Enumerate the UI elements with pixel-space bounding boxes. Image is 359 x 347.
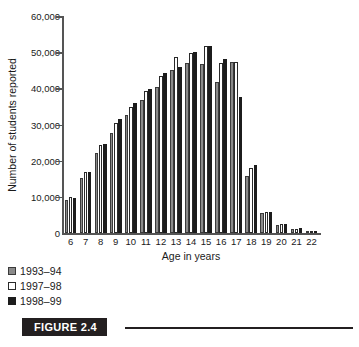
x-axis-tick-label: 7 — [78, 236, 93, 250]
x-axis-tick-label: 20 — [274, 236, 289, 250]
plot-area — [62, 16, 320, 233]
x-axis-tick-label: 11 — [138, 236, 153, 250]
bar — [280, 224, 284, 233]
bar-group — [199, 16, 214, 233]
bar-group — [93, 16, 108, 233]
x-axis-tick-label: 13 — [168, 236, 183, 250]
bar — [144, 91, 148, 233]
bar — [118, 119, 122, 233]
bar-group — [229, 16, 244, 233]
figure-caption-label: FIGURE 2.4 — [22, 318, 107, 336]
bar-group — [244, 16, 259, 233]
bar-groups — [62, 16, 320, 233]
y-axis-title: Number of students reported — [4, 16, 20, 233]
x-axis-tick-label: 8 — [93, 236, 108, 250]
bar — [174, 57, 178, 233]
legend-label: 1998–99 — [20, 295, 62, 307]
x-axis-tick-label: 22 — [304, 236, 319, 250]
legend-swatch-icon — [8, 282, 16, 290]
bar — [276, 225, 280, 233]
bar — [103, 144, 107, 233]
bar — [114, 123, 118, 233]
bar — [249, 168, 253, 233]
bar — [295, 229, 299, 233]
bar — [284, 224, 288, 233]
bar — [215, 82, 219, 233]
bar — [110, 133, 114, 233]
bar — [159, 76, 163, 233]
bar — [223, 59, 227, 233]
bar — [193, 52, 197, 233]
legend-item: 1993–94 — [8, 263, 138, 278]
x-axis-line — [62, 233, 321, 235]
x-axis-tick-label: 19 — [259, 236, 274, 250]
legend-label: 1997–98 — [20, 280, 62, 292]
bar — [299, 228, 303, 233]
bar — [73, 198, 77, 233]
bar — [88, 172, 92, 233]
bar — [230, 62, 234, 233]
x-axis-tick-label: 12 — [153, 236, 168, 250]
legend-swatch-icon — [8, 297, 16, 305]
x-axis-title: Age in years — [62, 250, 320, 262]
bar-group — [168, 16, 183, 233]
x-axis-tick-label: 6 — [63, 236, 78, 250]
bar — [291, 229, 295, 233]
legend-label: 1993–94 — [20, 265, 62, 277]
bar-group — [123, 16, 138, 233]
legend-swatch-icon — [8, 267, 16, 275]
bar — [314, 231, 318, 233]
bar — [133, 103, 137, 233]
bar-group — [63, 16, 78, 233]
bar — [200, 64, 204, 233]
x-axis-tick-label: 14 — [184, 236, 199, 250]
bar — [95, 153, 99, 233]
chart-legend: 1993–941997–981998–99 — [8, 263, 138, 308]
bar — [155, 87, 159, 233]
x-axis-tick-label: 18 — [244, 236, 259, 250]
bar-group — [259, 16, 274, 233]
bar — [208, 46, 212, 233]
bar — [265, 212, 269, 233]
bar-group — [78, 16, 93, 233]
bar — [99, 145, 103, 233]
bar — [148, 89, 152, 233]
bar — [125, 115, 129, 233]
bar-group — [184, 16, 199, 233]
x-axis-tick-label: 17 — [229, 236, 244, 250]
bar — [204, 46, 208, 233]
bar-group — [108, 16, 123, 233]
bar-group — [289, 16, 304, 233]
y-axis-title-text: Number of students reported — [6, 58, 18, 192]
x-axis-tick-label: 10 — [123, 236, 138, 250]
x-axis-tick-label: 21 — [289, 236, 304, 250]
bar-group — [214, 16, 229, 233]
bar — [260, 213, 264, 233]
bar — [310, 231, 314, 233]
bar — [239, 97, 243, 233]
bar — [80, 178, 84, 233]
bar — [178, 67, 182, 233]
legend-item: 1998–99 — [8, 293, 138, 308]
bar — [84, 172, 88, 233]
figure-2-4: Number of students reported 60,00050,000… — [0, 0, 359, 347]
bar — [306, 231, 310, 233]
bar — [65, 200, 69, 233]
figure-caption-bar: FIGURE 2.4 — [0, 318, 359, 340]
bar-group — [304, 16, 319, 233]
x-axis-tick-labels: 678910111213141516171819202122 — [62, 236, 320, 250]
bar — [170, 70, 174, 233]
bar — [189, 53, 193, 233]
bar — [69, 197, 73, 233]
x-axis-tick-label: 15 — [199, 236, 214, 250]
x-axis-tick-label: 9 — [108, 236, 123, 250]
bar-chart: Number of students reported 60,00050,000… — [0, 0, 359, 265]
y-axis-tick-label: 0 — [55, 228, 60, 239]
bar — [234, 62, 238, 233]
bar — [245, 176, 249, 233]
bar — [269, 212, 273, 233]
bar — [254, 165, 258, 233]
legend-item: 1997–98 — [8, 278, 138, 293]
bar-group — [138, 16, 153, 233]
bar-group — [274, 16, 289, 233]
